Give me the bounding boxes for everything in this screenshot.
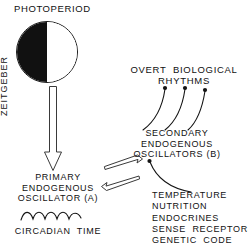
half-dark-circle-icon	[16, 21, 78, 83]
three-curved-up-arrows-icon	[140, 84, 224, 132]
secondary-endogenous-oscillators-label: SECONDARY ENDOGENOUS OSCILLATORS (B)	[118, 128, 236, 160]
primary-endogenous-oscillator-label: PRIMARY ENDOGENOUS OSCILLATOR (A)	[6, 172, 110, 204]
zeitgeber-label: ZEITGEBER	[0, 56, 10, 116]
sine-wave-icon	[20, 208, 92, 224]
circle-night-half	[17, 22, 47, 82]
hollow-down-arrow-icon	[40, 86, 66, 172]
circadian-time-label: CIRCADIAN TIME	[6, 226, 110, 237]
circadian-rhythm-diagram: PHOTOPERIOD ZEITGEBER PRIMARY ENDOGENOUS…	[0, 0, 248, 246]
curved-up-left-arrow-icon	[138, 158, 194, 194]
circle-day-half	[47, 22, 77, 82]
factors-list: TEMPERATURE NUTRITION ENDOCRINES SENSE R…	[152, 190, 248, 246]
photoperiod-label: PHOTOPERIOD	[14, 3, 91, 14]
